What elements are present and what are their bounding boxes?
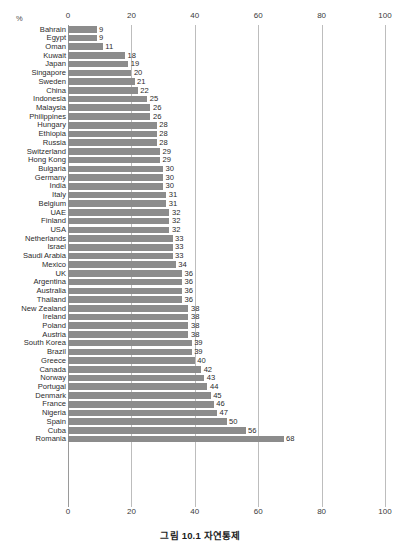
bar-category-label: Italy <box>0 190 68 199</box>
bar <box>68 366 201 373</box>
bar-value-label: 47 <box>219 408 227 417</box>
bar-category-label: Portugal <box>0 382 68 391</box>
bar <box>68 70 131 77</box>
bar-value-label: 36 <box>185 286 193 295</box>
bar-value-label: 26 <box>153 112 161 121</box>
bar-value-label: 32 <box>172 225 180 234</box>
bar-category-label: Finland <box>0 216 68 225</box>
bar-category-label: USA <box>0 225 68 234</box>
bar-value-label: 18 <box>128 51 136 60</box>
bar-category-label: Israel <box>0 242 68 251</box>
bar-value-label: 9 <box>99 33 103 42</box>
bar-category-label: Nigeria <box>0 408 68 417</box>
bar-value-label: 19 <box>131 59 139 68</box>
bar <box>68 340 192 347</box>
bar-category-label: Australia <box>0 286 68 295</box>
bar-category-label: India <box>0 181 68 190</box>
bar-category-label: Argentina <box>0 277 68 286</box>
bar-category-label: Hungary <box>0 120 68 129</box>
bar-category-label: Bahrain <box>0 25 68 34</box>
bar-value-label: 9 <box>99 25 103 34</box>
bar-value-label: 20 <box>134 68 142 77</box>
bar-category-label: UK <box>0 269 68 278</box>
bar <box>68 174 163 181</box>
bar-value-label: 36 <box>185 295 193 304</box>
bar-value-label: 68 <box>286 434 294 443</box>
bar-value-label: 34 <box>178 260 186 269</box>
axis-tick-label-40: 40 <box>190 11 199 20</box>
bar <box>68 43 103 50</box>
bar-category-label: Japan <box>0 59 68 68</box>
bar-category-label: South Korea <box>0 338 68 347</box>
bar <box>68 244 173 251</box>
bar-category-label: Norway <box>0 373 68 382</box>
bar <box>68 131 157 138</box>
bar-category-label: Kuwait <box>0 51 68 60</box>
bar <box>68 331 188 338</box>
bar-value-label: 21 <box>137 77 145 86</box>
bar-category-label: Romania <box>0 434 68 443</box>
bar-value-label: 30 <box>166 181 174 190</box>
bar <box>68 410 217 417</box>
bar-category-label: Switzerland <box>0 147 68 156</box>
bar-value-label: 25 <box>150 94 158 103</box>
bar-category-label: Indonesia <box>0 94 68 103</box>
bar-category-label: Thailand <box>0 295 68 304</box>
bar <box>68 401 214 408</box>
figure-caption: 그림 10.1 자연통제 <box>0 528 401 542</box>
bar <box>68 418 227 425</box>
bar <box>68 436 284 443</box>
bar-value-label: 29 <box>162 155 170 164</box>
bar <box>68 270 182 277</box>
bar-category-label: Sweden <box>0 77 68 86</box>
bar-category-label: Belgium <box>0 199 68 208</box>
axis-tick-label-60: 60 <box>254 11 263 20</box>
bar-value-label: 36 <box>185 277 193 286</box>
bar-category-label: Greece <box>0 356 68 365</box>
bar-category-label: Hong Kong <box>0 155 68 164</box>
axis-tick-label-20: 20 <box>127 11 136 20</box>
bar-category-label: Mexico <box>0 260 68 269</box>
bar <box>68 52 125 59</box>
bar-row: Romania68 <box>0 435 401 444</box>
bar-category-label: Brazil <box>0 347 68 356</box>
bar-category-label: Ethiopia <box>0 129 68 138</box>
bar-value-label: 32 <box>172 208 180 217</box>
bar <box>68 104 150 111</box>
bar-value-label: 28 <box>159 138 167 147</box>
bar-value-label: 40 <box>197 356 205 365</box>
axis-tick-label-20: 20 <box>127 507 136 516</box>
bar <box>68 113 150 120</box>
bar-category-label: Egypt <box>0 33 68 42</box>
bar-value-label: 56 <box>248 426 256 435</box>
bar-category-label: France <box>0 399 68 408</box>
bar-value-label: 31 <box>169 190 177 199</box>
axis-tick-label-100: 100 <box>378 11 391 20</box>
bar-category-label: Singapore <box>0 68 68 77</box>
bar-value-label: 46 <box>216 399 224 408</box>
bar <box>68 192 166 199</box>
bar-value-label: 30 <box>166 173 174 182</box>
bar <box>68 61 128 68</box>
bar <box>68 200 166 207</box>
bar-value-label: 38 <box>191 304 199 313</box>
bar-category-label: Poland <box>0 321 68 330</box>
bar-category-label: Philippines <box>0 112 68 121</box>
bar <box>68 322 188 329</box>
bar <box>68 427 246 434</box>
bar <box>68 218 169 225</box>
bar-value-label: 50 <box>229 417 237 426</box>
bar-value-label: 32 <box>172 216 180 225</box>
bar-value-label: 11 <box>105 42 113 51</box>
axis-tick-label-100: 100 <box>378 507 391 516</box>
bar <box>68 314 188 321</box>
bar-value-label: 28 <box>159 120 167 129</box>
axis-tick-label-0: 0 <box>66 507 70 516</box>
bar-category-label: New Zealand <box>0 304 68 313</box>
bar-category-label: Canada <box>0 365 68 374</box>
bar <box>68 375 204 382</box>
axis-tick-label-40: 40 <box>190 507 199 516</box>
bar <box>68 383 207 390</box>
bar-value-label: 33 <box>175 251 183 260</box>
bar-value-label: 29 <box>162 147 170 156</box>
